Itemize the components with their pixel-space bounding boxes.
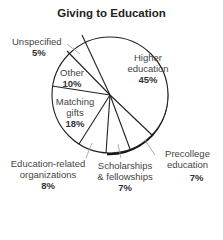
label-text: & fellowships — [97, 171, 152, 182]
label-text: gifts — [66, 107, 83, 118]
label-text: organizations — [20, 169, 77, 180]
label-text: Matching — [56, 96, 95, 107]
label-text: Precollege — [165, 148, 210, 159]
label-text: education — [127, 63, 168, 74]
label-pct: 7% — [92, 182, 158, 193]
label-text: Education-related — [11, 158, 85, 169]
label-pct: 18% — [52, 118, 98, 129]
label-text: Higher — [134, 52, 162, 63]
label-other: Other 10% — [54, 67, 90, 89]
label-precollege-education: Precollege education 7% — [160, 148, 215, 183]
label-unspecified: Unspecified 5% — [12, 36, 64, 58]
label-matching-gifts: Matching gifts 18% — [52, 96, 98, 129]
label-text: Scholarships — [98, 160, 152, 171]
label-scholarships: Scholarships & fellowships 7% — [92, 160, 158, 193]
label-text: Other — [60, 67, 84, 78]
label-pct: 7% — [160, 172, 215, 183]
label-text: education — [167, 159, 208, 170]
label-education-related-organizations: Education-related organizations 8% — [8, 158, 88, 191]
label-pct: 10% — [54, 78, 90, 89]
label-pct: 8% — [8, 180, 88, 191]
label-text: Unspecified — [12, 36, 62, 47]
label-pct: 45% — [118, 74, 178, 85]
label-pct: 5% — [12, 47, 64, 58]
label-higher-education: Higher education 45% — [118, 52, 178, 85]
